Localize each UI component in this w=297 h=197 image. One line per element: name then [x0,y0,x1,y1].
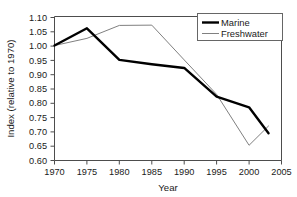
y-axis-title: Index (relative to 1970) [5,39,16,137]
line-chart: 0.60 0.65 0.70 0.75 0.80 0.85 0.90 0.95 … [0,0,297,197]
series-line-freshwater [55,25,269,145]
y-tick-label: 0.80 [29,98,47,108]
x-axis-ticks [55,161,282,165]
y-tick-label: 0.75 [29,113,47,123]
x-axis-tick-labels: 1970 1975 1980 1985 1990 1995 2000 2005 [44,167,291,177]
y-tick-label: 1.10 [29,13,47,23]
chart-legend: Marine Freshwater [198,14,283,41]
data-series-group [55,25,269,145]
x-tick-label: 1995 [206,167,226,177]
x-axis-title: Year [158,182,178,193]
y-tick-label: 0.70 [29,127,47,137]
y-axis-tick-labels: 0.60 0.65 0.70 0.75 0.80 0.85 0.90 0.95 … [29,13,47,166]
legend-label-marine: Marine [221,17,250,28]
series-line-marine [55,28,269,133]
y-tick-label: 1.05 [29,27,47,37]
y-axis-ticks [51,18,55,161]
chart-figure: 0.60 0.65 0.70 0.75 0.80 0.85 0.90 0.95 … [0,0,297,197]
x-tick-label: 1980 [109,167,129,177]
y-tick-label: 0.85 [29,84,47,94]
y-tick-label: 0.60 [29,156,47,166]
y-tick-label: 0.90 [29,70,47,80]
x-tick-label: 1975 [77,167,97,177]
x-tick-label: 2005 [271,167,291,177]
x-tick-label: 2000 [239,167,259,177]
y-tick-label: 1.00 [29,41,47,51]
x-tick-label: 1985 [142,167,162,177]
y-tick-label: 0.65 [29,141,47,151]
legend-label-freshwater: Freshwater [221,28,268,39]
x-tick-label: 1990 [174,167,194,177]
x-tick-label: 1970 [44,167,64,177]
y-tick-label: 0.95 [29,56,47,66]
